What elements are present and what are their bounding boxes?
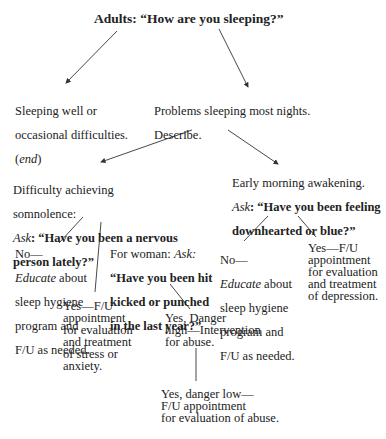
problems-line1: Problems sleeping most nights. (154, 104, 310, 118)
woman-prefix: For woman: (110, 247, 174, 261)
node-early-morning: Early morning awakening. Ask: “Have you … (232, 165, 381, 237)
no-label: No— (15, 247, 43, 261)
no-right-line2: about (261, 277, 292, 291)
no-label: No— (220, 253, 248, 267)
paren-close: ) (37, 152, 41, 166)
no-right-line3: sleep hygiene (220, 301, 288, 315)
node-yes-stress: Yes—F/U appointment for evaluation and t… (63, 300, 133, 372)
sleeping-well-line1: Sleeping well or (15, 104, 97, 118)
ask-label: Ask: (174, 247, 196, 261)
somnolence-line1: Difficulty achieving (13, 183, 114, 197)
woman-question-1: “Have you been hit (110, 271, 212, 285)
ask-label: Ask (232, 200, 250, 214)
node-problems: Problems sleeping most nights. Describe. (154, 93, 310, 141)
node-yes-depression: Yes—F/U appointment for evaluation and t… (308, 242, 378, 302)
edge-root-to-sleeping-well (66, 31, 117, 83)
end-label: end (19, 152, 37, 166)
node-danger-low: Yes, danger low— F/U appointment for eva… (161, 388, 279, 424)
root-question: Adults: “How are you sleeping?” (94, 13, 284, 25)
no-right-line4: program and (220, 325, 284, 339)
early-line1: Early morning awakening. (232, 176, 365, 190)
node-sleeping-well: Sleeping well or occasional difficulties… (15, 93, 128, 165)
edge-root-to-problems (219, 29, 248, 87)
educate-label: Educate (15, 271, 56, 285)
educate-label: Educate (220, 277, 261, 291)
problems-line2: Describe. (154, 128, 202, 142)
node-no-right: No— Educate about sleep hygiene program … (220, 242, 295, 362)
sleeping-well-line2: occasional difficulties. (15, 128, 128, 142)
early-question-1: : “Have you been feeling (250, 200, 381, 214)
somnolence-line2: somnolence: (13, 207, 76, 221)
no-right-line5: F/U as needed. (220, 349, 295, 363)
no-left-line2: about (56, 271, 87, 285)
early-question-2: downhearted or blue?” (232, 224, 355, 238)
